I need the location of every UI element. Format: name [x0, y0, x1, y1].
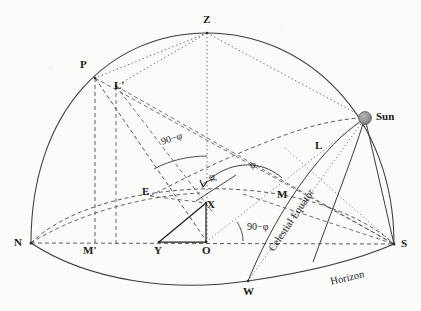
label-zenith: Z	[203, 14, 210, 25]
label-sun: Sun	[376, 111, 394, 122]
vertex-dot-pole	[94, 77, 97, 80]
angle-arc-phi-big	[211, 165, 282, 178]
x-to-sun-ray	[196, 175, 236, 201]
label-pole-projection: L'	[114, 80, 124, 91]
sun-icon	[359, 112, 372, 125]
label-north: N	[14, 237, 22, 248]
label-point-x: X	[207, 199, 215, 210]
label-point-m: M	[277, 189, 287, 200]
angle-arc-90-minus-phi-lower	[237, 222, 243, 241]
zenith-to-sun-dotted	[207, 33, 365, 118]
vertex-dot-y	[158, 241, 161, 244]
vertex-dot-zenith	[206, 32, 209, 35]
pole-to-south-dashed	[95, 78, 394, 244]
diagram-canvas: Celestial Equator Horizon Z P L' N S E W…	[0, 0, 421, 311]
label-origin: O	[202, 245, 211, 256]
horizon-label: Horizon	[329, 268, 366, 287]
celestial-equator-label: Celestial Equator	[266, 186, 316, 253]
equator-plane-rear-dashed	[31, 193, 200, 243]
label-point-l: L	[315, 140, 322, 151]
celestial-sphere-svg: Celestial Equator Horizon	[0, 0, 421, 311]
polar-axis-dashed	[95, 78, 207, 242]
label-point-m-prime: M'	[83, 245, 96, 256]
angle-arc-90-minus-phi-upper	[154, 156, 207, 169]
label-angle-90-minus-phi-lower: 90−φ	[247, 222, 268, 232]
label-south: S	[401, 238, 407, 249]
vertex-dot-origin	[205, 241, 208, 244]
sun-to-south-line	[365, 118, 394, 244]
label-foot-y: Y	[154, 245, 162, 256]
vertex-dot-north	[30, 242, 33, 245]
label-west: W	[243, 286, 254, 297]
label-east: E	[142, 186, 149, 197]
vertex-dot-west	[247, 280, 249, 282]
vertex-dot-south	[393, 243, 396, 246]
celestial-equator-dashed	[150, 118, 365, 196]
label-pole: P	[80, 59, 87, 70]
triangle-y-to-x	[159, 203, 206, 242]
label-angle-phi-small: φ	[209, 172, 215, 182]
lprime-to-interior-dashed	[116, 86, 214, 214]
zenith-to-pole-dotted	[95, 33, 207, 78]
label-angle-phi-big: φ	[250, 160, 256, 170]
zenith-to-lprime-dotted	[116, 33, 207, 86]
